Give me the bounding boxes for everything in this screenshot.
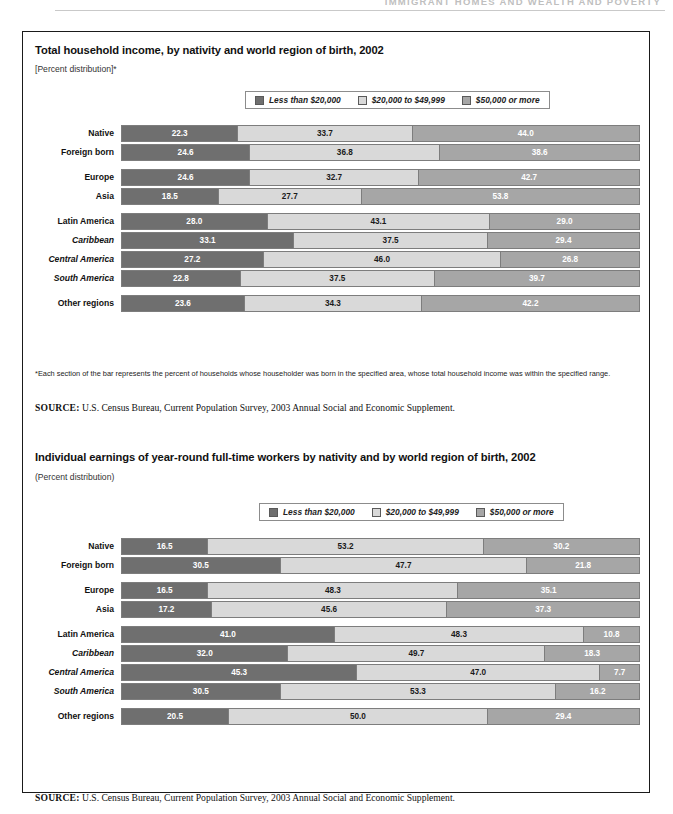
bar-segment: 24.6 [122, 170, 249, 185]
bar-segment: 36.8 [249, 145, 439, 160]
bar-segment: 28.0 [122, 214, 267, 229]
bar-track: 24.636.838.6 [121, 144, 640, 161]
bar-segment: 23.6 [122, 296, 244, 311]
bar-segment: 39.7 [434, 271, 639, 286]
bar-track: 16.553.230.2 [121, 538, 640, 555]
bar-row: Native22.333.744.0 [23, 125, 640, 142]
panel1-subtitle: [Percent distribution]* [35, 64, 117, 74]
bar-segment: 16.2 [555, 684, 639, 699]
bar-segment: 42.2 [421, 296, 639, 311]
bar-segment: 10.8 [583, 627, 639, 642]
legend-swatch-lt20k [255, 96, 264, 105]
bar-row-label: Foreign born [23, 148, 121, 157]
figure-frame: Total household income, by nativity and … [22, 31, 650, 793]
bar-segment: 24.6 [122, 145, 249, 160]
bar-segment: 16.5 [122, 583, 207, 598]
bar-segment: 29.0 [489, 214, 639, 229]
bar-row-label: Europe [23, 173, 121, 182]
bar-track: 22.837.539.7 [121, 270, 640, 287]
bar-row-label: Latin America [23, 217, 121, 226]
bar-row: Native16.553.230.2 [23, 538, 640, 555]
bar-track: 41.048.310.8 [121, 626, 640, 643]
bar-row-label: Other regions [23, 299, 121, 308]
bar-segment: 29.4 [487, 709, 639, 724]
bar-segment: 33.1 [122, 233, 293, 248]
bar-row: Europe16.548.335.1 [23, 582, 640, 599]
bar-row: South America22.837.539.7 [23, 270, 640, 287]
bar-segment: 38.6 [439, 145, 639, 160]
bar-segment: 45.3 [122, 665, 356, 680]
bar-segment: 50.0 [228, 709, 487, 724]
bar-track: 27.246.026.8 [121, 251, 640, 268]
running-header-text: IMMIGRANT HOMES AND WEALTH AND POVERTY [385, 0, 661, 7]
legend-swatch-20k-50k-2 [372, 508, 381, 517]
bar-segment: 27.2 [122, 252, 263, 267]
bar-row-label: Latin America [23, 630, 121, 639]
legend-label-lt20k-2: Less than $20,000 [283, 507, 355, 517]
bar-segment: 30.5 [122, 558, 280, 573]
bar-row: Central America45.347.07.7 [23, 664, 640, 681]
header-rule [55, 10, 665, 11]
bar-segment: 33.7 [237, 126, 411, 141]
bar-segment: 16.5 [122, 539, 207, 554]
panel1-bar-chart: Native22.333.744.0Foreign born24.636.838… [23, 125, 640, 314]
bar-row: Other regions23.634.342.2 [23, 295, 640, 312]
bar-track: 28.043.129.0 [121, 213, 640, 230]
panel2-bar-chart: Native16.553.230.2Foreign born30.547.721… [23, 538, 640, 727]
bar-segment: 32.7 [249, 170, 418, 185]
panel1-source-text: U.S. Census Bureau, Current Population S… [82, 402, 455, 413]
bar-track: 30.547.721.8 [121, 557, 640, 574]
bar-track: 16.548.335.1 [121, 582, 640, 599]
bar-row-label: Asia [23, 605, 121, 614]
panel2-subtitle: (Percent distribution) [35, 472, 114, 482]
bar-row: Asia18.527.753.8 [23, 188, 640, 205]
panel1-source-label: SOURCE: [35, 402, 80, 413]
legend-label-lt20k: Less than $20,000 [269, 95, 341, 105]
panel1-source: SOURCE: U.S. Census Bureau, Current Popu… [35, 402, 455, 413]
bar-segment: 26.8 [500, 252, 639, 267]
panel2-source-text: U.S. Census Bureau, Current Population S… [82, 792, 455, 803]
bar-row: Caribbean33.137.529.4 [23, 232, 640, 249]
bar-row-label: Other regions [23, 712, 121, 721]
bar-segment: 47.0 [356, 665, 599, 680]
bar-segment: 43.1 [267, 214, 490, 229]
bar-row: Latin America41.048.310.8 [23, 626, 640, 643]
legend-label-20k-50k-2: $20,000 to $49,999 [386, 507, 459, 517]
legend-item-lt20k-2: Less than $20,000 [269, 507, 355, 517]
bar-segment: 42.7 [418, 170, 639, 185]
bar-segment: 37.5 [240, 271, 434, 286]
legend-item-gte50k: $50,000 or more [462, 95, 540, 105]
bar-row-label: Asia [23, 192, 121, 201]
legend-item-lt20k: Less than $20,000 [255, 95, 341, 105]
legend-item-20k-50k-2: $20,000 to $49,999 [372, 507, 459, 517]
bar-row: Latin America28.043.129.0 [23, 213, 640, 230]
panel2-legend: Less than $20,000 $20,000 to $49,999 $50… [259, 503, 564, 521]
bar-row: Foreign born30.547.721.8 [23, 557, 640, 574]
bar-segment: 41.0 [122, 627, 334, 642]
panel1-footnote: *Each section of the bar represents the … [35, 369, 625, 379]
bar-segment: 7.7 [599, 665, 639, 680]
bar-segment: 30.5 [122, 684, 280, 699]
bar-row: Central America27.246.026.8 [23, 251, 640, 268]
bar-segment: 27.7 [218, 189, 361, 204]
bar-row-label: South America [23, 687, 121, 696]
legend-swatch-lt20k-2 [269, 508, 278, 517]
bar-track: 23.634.342.2 [121, 295, 640, 312]
bar-row: Caribbean32.049.718.3 [23, 645, 640, 662]
bar-row-label: Native [23, 542, 121, 551]
bar-segment: 44.0 [412, 126, 639, 141]
bar-row-label: Central America [23, 668, 121, 677]
bar-track: 22.333.744.0 [121, 125, 640, 142]
bar-segment: 53.8 [361, 189, 639, 204]
bar-segment: 37.5 [293, 233, 487, 248]
bar-row-label: Caribbean [23, 236, 121, 245]
bar-segment: 48.3 [207, 583, 457, 598]
legend-item-20k-50k: $20,000 to $49,999 [358, 95, 445, 105]
bar-segment: 35.1 [457, 583, 639, 598]
bar-track: 18.527.753.8 [121, 188, 640, 205]
bar-track: 45.347.07.7 [121, 664, 640, 681]
legend-label-gte50k-2: $50,000 or more [490, 507, 554, 517]
bar-segment: 20.5 [122, 709, 228, 724]
legend-swatch-gte50k [462, 96, 471, 105]
panel1-legend: Less than $20,000 $20,000 to $49,999 $50… [245, 91, 550, 109]
